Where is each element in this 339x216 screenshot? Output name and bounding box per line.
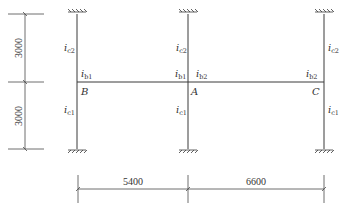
fixed-support-icon — [179, 9, 198, 12]
dim-span-right: 6600 — [246, 176, 266, 187]
label-ib2-C: ib2 — [306, 68, 318, 81]
label-ib2-A: ib2 — [196, 68, 208, 81]
fixed-support-icon — [315, 150, 334, 153]
label-ic2-A: ic2 — [176, 42, 187, 55]
dim-span-left: 5400 — [123, 176, 143, 187]
fixed-support-icon — [68, 150, 87, 153]
label-ib1-B: ib1 — [81, 68, 93, 81]
label-ic2-B: ic2 — [64, 42, 75, 55]
node-label-A: A — [190, 86, 198, 97]
fixed-support-icon — [315, 9, 334, 12]
label-ic1-A: ic1 — [176, 104, 187, 117]
horizontal-dimension: 5400 6600 — [76, 175, 326, 203]
label-ic1-B: ic1 — [64, 104, 75, 117]
fixed-support-icon — [68, 9, 87, 12]
node-label-B: B — [80, 86, 88, 97]
vertical-dimension: 3000 3000 — [8, 12, 44, 151]
fixed-support-icon — [179, 150, 198, 153]
frame-diagram: 3000 3000 — [0, 0, 339, 216]
label-ic1-C: ic1 — [328, 104, 339, 117]
dim-lower-storey: 3000 — [13, 106, 24, 126]
label-ib1-A: ib1 — [175, 68, 187, 81]
node-label-C: C — [312, 86, 320, 97]
label-ic2-C: ic2 — [328, 42, 339, 55]
dim-upper-storey: 3000 — [13, 38, 24, 58]
